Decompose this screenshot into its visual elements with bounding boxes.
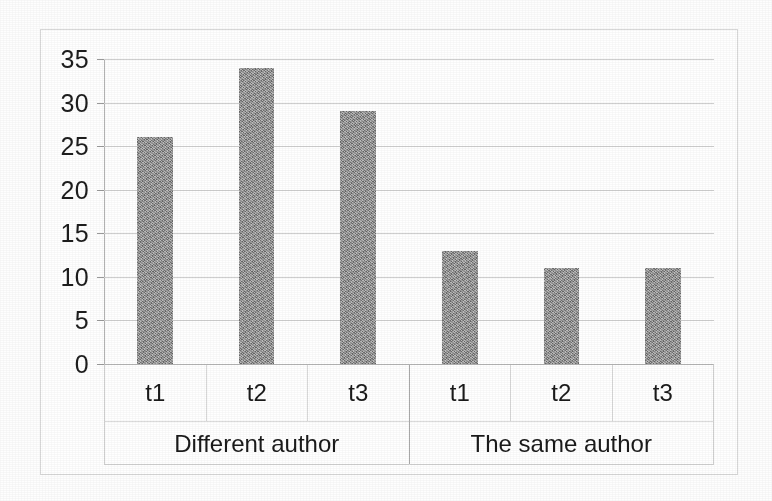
chart-frame: 35302520151050 t1t2t3t1t2t3 Different au… bbox=[40, 29, 738, 475]
x-axis-tick-label: t2 bbox=[511, 365, 613, 421]
y-axis-tickmark bbox=[97, 146, 104, 147]
bar bbox=[544, 268, 580, 364]
bar-series bbox=[104, 59, 714, 364]
y-axis-tick-label: 20 bbox=[61, 175, 89, 204]
bar bbox=[442, 251, 478, 364]
y-axis-tick-label: 0 bbox=[75, 350, 89, 379]
x-axis-tick-label: t1 bbox=[410, 365, 512, 421]
x-axis-label-table: t1t2t3t1t2t3 Different authorThe same au… bbox=[104, 364, 714, 465]
y-axis-tick-label: 30 bbox=[61, 88, 89, 117]
y-axis-tickmark bbox=[97, 277, 104, 278]
bar bbox=[239, 68, 275, 364]
y-axis-tick-label: 25 bbox=[61, 132, 89, 161]
x-axis-tick-label: t1 bbox=[105, 365, 207, 421]
group-separator bbox=[409, 365, 410, 464]
y-axis-tick-label: 5 bbox=[75, 306, 89, 335]
plot-area bbox=[104, 59, 714, 364]
y-axis-tickmark bbox=[97, 59, 104, 60]
y-axis-tickmark bbox=[97, 103, 104, 104]
x-axis-tick-label: t3 bbox=[613, 365, 714, 421]
y-axis-tick-label: 10 bbox=[61, 262, 89, 291]
y-axis-tickmark bbox=[97, 233, 104, 234]
y-axis: 35302520151050 bbox=[41, 30, 96, 476]
bar bbox=[340, 111, 376, 364]
y-axis-tick-label: 15 bbox=[61, 219, 89, 248]
x-axis-group-label: Different author bbox=[105, 422, 410, 465]
bar bbox=[645, 268, 681, 364]
x-axis-tick-label: t3 bbox=[308, 365, 410, 421]
y-axis-tickmark bbox=[97, 320, 104, 321]
x-axis-tick-label: t2 bbox=[207, 365, 309, 421]
x-axis-group-label: The same author bbox=[410, 422, 714, 465]
page-background: 35302520151050 t1t2t3t1t2t3 Different au… bbox=[0, 0, 772, 501]
y-axis-tickmark bbox=[97, 190, 104, 191]
y-axis-tick-label: 35 bbox=[61, 45, 89, 74]
chart-plot-wrapper: 35302520151050 t1t2t3t1t2t3 Different au… bbox=[41, 30, 739, 476]
bar bbox=[137, 137, 173, 364]
y-axis-tickmark bbox=[97, 364, 104, 365]
